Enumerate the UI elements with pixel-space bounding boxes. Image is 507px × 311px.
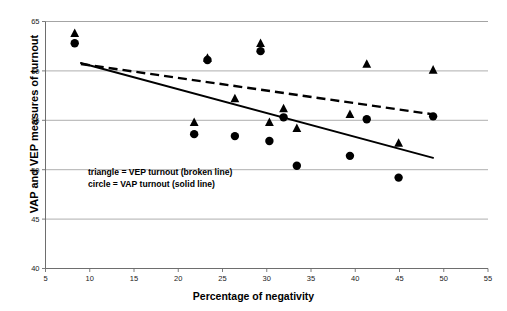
y-axis-title: VAP and VEP measures of turnout xyxy=(28,4,40,244)
svg-text:10: 10 xyxy=(86,274,94,283)
svg-text:25: 25 xyxy=(218,274,226,283)
svg-text:5: 5 xyxy=(43,274,47,283)
svg-text:55: 55 xyxy=(484,274,492,283)
legend-entry-vep: triangle = VEP turnout (broken line) xyxy=(88,166,232,178)
scatter-plot: 510152025303540455055 404550556065 xyxy=(0,0,507,311)
svg-text:35: 35 xyxy=(307,274,315,283)
axis-lines xyxy=(42,22,488,273)
trend-line-vep-dashed xyxy=(81,64,433,114)
x-tick-labels: 510152025303540455055 xyxy=(43,274,492,283)
chart-container: 510152025303540455055 404550556065 VAP a… xyxy=(0,0,507,311)
x-axis-title: Percentage of negativity xyxy=(0,290,507,302)
svg-text:15: 15 xyxy=(130,274,138,283)
legend-entry-vap: circle = VAP turnout (solid line) xyxy=(88,178,232,190)
svg-text:40: 40 xyxy=(31,264,39,273)
legend: triangle = VEP turnout (broken line) cir… xyxy=(88,166,232,190)
svg-text:30: 30 xyxy=(263,274,271,283)
svg-text:20: 20 xyxy=(174,274,182,283)
svg-text:45: 45 xyxy=(395,274,403,283)
svg-text:50: 50 xyxy=(440,274,448,283)
grid-lines xyxy=(46,22,489,269)
svg-text:40: 40 xyxy=(351,274,359,283)
trend-line-vap-solid xyxy=(81,63,433,158)
